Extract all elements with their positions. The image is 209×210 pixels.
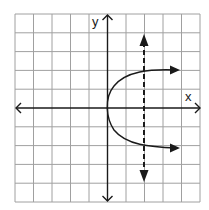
dashed-arrow-down-icon bbox=[140, 170, 149, 182]
x-axis-label: x bbox=[185, 89, 192, 104]
parabola-curve bbox=[107, 70, 176, 148]
y-axis-label: y bbox=[92, 14, 99, 29]
dashed-arrow-up-icon bbox=[140, 34, 149, 46]
curve-arrow-top-icon bbox=[170, 66, 180, 75]
coordinate-graph: y x bbox=[0, 0, 209, 210]
curve-arrow-bottom-icon bbox=[170, 144, 180, 153]
